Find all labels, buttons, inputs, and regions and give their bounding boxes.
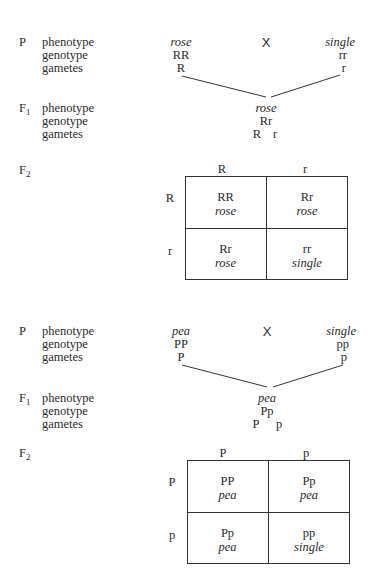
punnett-cell: Rr rose <box>266 190 348 218</box>
f2-subscript: 2 <box>26 169 31 179</box>
gametes-label: gametes <box>42 418 83 431</box>
f1-subscript: 1 <box>26 397 31 407</box>
f1-subscript: 1 <box>26 107 31 117</box>
f1-genotype: Pp <box>260 405 273 418</box>
cell-phenotype: single <box>268 540 350 554</box>
punnett-cell: rr single <box>266 242 348 270</box>
f1-gamete-1: P <box>253 418 260 431</box>
punnett-cell: RR rose <box>185 190 266 218</box>
cell-phenotype: single <box>266 256 348 270</box>
cross-symbol: X <box>263 325 272 338</box>
f1-letter: F <box>19 391 26 405</box>
cell-genotype: PP <box>187 474 268 488</box>
cell-genotype: rr <box>266 242 348 256</box>
f2-generation-label: F2 <box>19 164 30 177</box>
cell-genotype: pp <box>268 526 350 540</box>
cell-genotype: Pp <box>268 474 350 488</box>
parent1-gamete: P <box>178 351 185 364</box>
col-header-1: P <box>220 447 227 460</box>
f2-letter: F <box>19 446 26 460</box>
p-generation-label: P <box>19 325 26 338</box>
pea-cross-left-line <box>182 365 267 387</box>
pea-cross-right-line <box>273 365 343 387</box>
col-header-1: R <box>218 163 226 176</box>
f1-letter: F <box>19 101 26 115</box>
f1-gamete-1: R <box>253 128 261 141</box>
col-header-2: r <box>303 163 307 176</box>
punnett-cell: Pp pea <box>187 526 268 554</box>
row-header-1: P <box>169 476 176 489</box>
cell-phenotype: rose <box>185 256 266 270</box>
cell-phenotype: pea <box>187 488 268 502</box>
cross-symbol: X <box>262 36 271 49</box>
f1-genotype: Rr <box>260 115 273 128</box>
p-generation-label: P <box>19 36 26 49</box>
parent1-gamete: R <box>177 62 185 75</box>
cell-genotype: Rr <box>266 190 348 204</box>
row-header-1: R <box>166 192 174 205</box>
f1-gamete-2: r <box>273 128 277 141</box>
grid-divider-horizontal <box>185 228 348 229</box>
punnett-cell: PP pea <box>187 474 268 502</box>
gametes-label: gametes <box>42 62 83 75</box>
cell-phenotype: pea <box>268 488 350 502</box>
gametes-label: gametes <box>42 128 83 141</box>
f1-generation-label: F1 <box>19 102 30 115</box>
cell-phenotype: rose <box>266 204 348 218</box>
grid-divider-horizontal <box>187 512 350 513</box>
col-header-2: p <box>303 447 309 460</box>
row-header-2: p <box>169 529 175 542</box>
f1-generation-label: F1 <box>19 392 30 405</box>
parent2-gamete: r <box>342 62 346 75</box>
f2-subscript: 2 <box>26 452 31 462</box>
cell-phenotype: pea <box>187 540 268 554</box>
f2-letter: F <box>19 163 26 177</box>
rose-cross-left-line <box>182 76 266 97</box>
row-header-2: r <box>168 245 172 258</box>
punnett-cell: Pp pea <box>268 474 350 502</box>
parent2-gamete: p <box>341 351 347 364</box>
punnett-cell: pp single <box>268 526 350 554</box>
rose-cross-right-line <box>271 75 340 97</box>
cell-phenotype: rose <box>185 204 266 218</box>
punnett-cell: Rr rose <box>185 242 266 270</box>
gametes-label: gametes <box>42 351 83 364</box>
cell-genotype: Rr <box>185 242 266 256</box>
cell-genotype: Pp <box>187 526 268 540</box>
cell-genotype: RR <box>185 190 266 204</box>
f1-gamete-2: p <box>276 418 282 431</box>
f2-generation-label: F2 <box>19 447 30 460</box>
